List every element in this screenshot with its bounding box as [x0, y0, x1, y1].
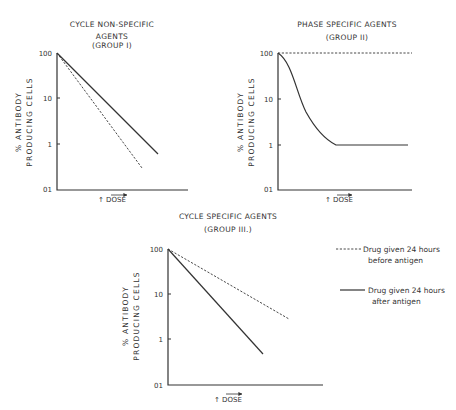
- chart2-ytick-1: 1: [269, 142, 273, 150]
- chart2-ytick-100: 100: [260, 50, 273, 58]
- chart2-axes: [278, 53, 412, 190]
- legend-before-line1: Drug given 24 hours: [363, 245, 440, 254]
- chart3-series-before: [168, 249, 289, 319]
- chart1-ytick-10: 10: [43, 95, 52, 103]
- svg-text:% ANTIBODY: % ANTIBODY: [236, 92, 245, 152]
- chart2-title-line2: (GROUP II): [326, 33, 369, 42]
- chart1-ytick-01: 01: [43, 186, 52, 194]
- chart3-ytick-01: 01: [154, 382, 163, 390]
- chart3-xlabel: ↑ DOSE: [214, 396, 242, 404]
- chart2-ytick-01: 01: [264, 186, 273, 194]
- chart3-ytick-10: 10: [154, 291, 163, 299]
- chart1-ytick-100: 100: [39, 50, 52, 58]
- chart3-title-line2: (GROUP III.): [204, 225, 252, 234]
- chart3-ylabel: % ANTIBODY PRODUCING CELLS: [121, 271, 141, 360]
- chart3-axes: [168, 249, 323, 385]
- chart1-ytick-1: 1: [48, 141, 52, 149]
- chart2-ytick-10: 10: [264, 96, 273, 104]
- chart-group-1: CYCLE NON-SPECIFIC AGENTS (GROUP I) % AN…: [14, 20, 188, 204]
- chart1-title-line2: AGENTS: [96, 32, 128, 41]
- svg-text:PRODUCING CELLS: PRODUCING CELLS: [25, 77, 34, 166]
- chart3-ytick-1: 1: [159, 336, 163, 344]
- chart3-series-after: [168, 249, 263, 354]
- chart-group-3: CYCLE SPECIFIC AGENTS (GROUP III.) % ANT…: [121, 212, 323, 404]
- chart1-xlabel: ↑ DOSE: [98, 196, 126, 204]
- chart1-series-before: [57, 53, 142, 168]
- chart2-xlabel: ↑ DOSE: [325, 196, 353, 204]
- chart1-title-line1: CYCLE NON-SPECIFIC: [70, 20, 154, 29]
- chart1-ylabel: % ANTIBODY PRODUCING CELLS: [14, 77, 34, 166]
- chart-group-2: PHASE SPECIFIC AGENTS (GROUP II) % ANTIB…: [236, 20, 412, 204]
- chart3-ytick-100: 100: [150, 246, 163, 254]
- svg-text:% ANTIBODY: % ANTIBODY: [121, 286, 130, 346]
- svg-text:% ANTIBODY: % ANTIBODY: [14, 92, 23, 152]
- chart2-title-line1: PHASE SPECIFIC AGENTS: [297, 20, 397, 29]
- chart1-axes: [57, 53, 188, 190]
- chart2-series-after: [278, 53, 408, 145]
- figure: CYCLE NON-SPECIFIC AGENTS (GROUP I) % AN…: [0, 0, 456, 410]
- chart1-series-after: [57, 53, 158, 154]
- chart1-title-line3: (GROUP I): [92, 41, 132, 50]
- chart3-title-line1: CYCLE SPECIFIC AGENTS: [179, 212, 277, 221]
- svg-text:PRODUCING CELLS: PRODUCING CELLS: [132, 271, 141, 360]
- legend: Drug given 24 hours before antigen Drug …: [336, 245, 445, 306]
- svg-text:PRODUCING CELLS: PRODUCING CELLS: [247, 77, 256, 166]
- chart2-ylabel: % ANTIBODY PRODUCING CELLS: [236, 77, 256, 166]
- legend-before-line2: before antigen: [368, 256, 423, 265]
- legend-after-line2: after antigen: [372, 297, 421, 306]
- legend-after-line1: Drug given 24 hours: [368, 286, 445, 295]
